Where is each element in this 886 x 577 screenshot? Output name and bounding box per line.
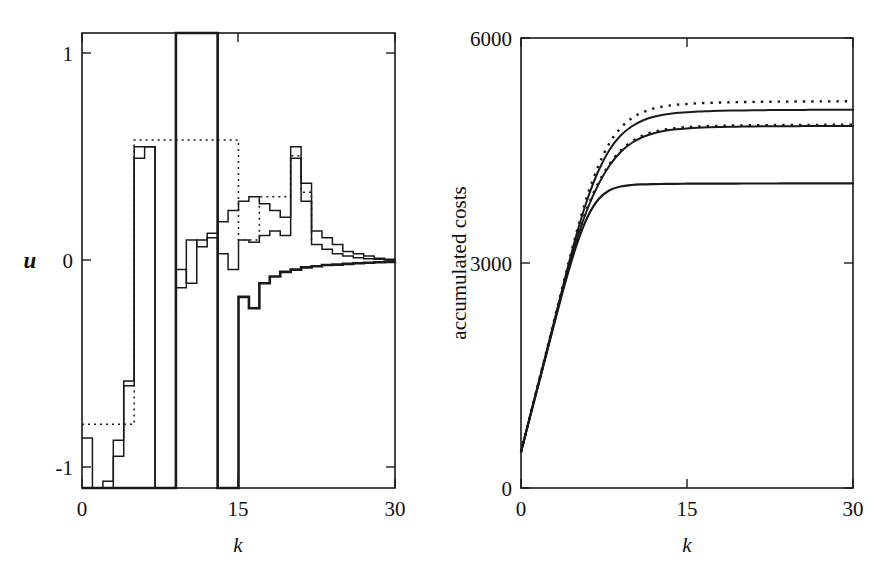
series-path (521, 110, 853, 452)
left-y-ticklabel-1: 1 (63, 42, 74, 66)
left-panel-series (82, 33, 395, 488)
series-path (521, 183, 853, 452)
right-panel: 6000 3000 0 0 15 30 k accumulated costs (447, 27, 864, 557)
left-yaxis-label: u (24, 248, 37, 273)
left-x-ticklabel-15: 15 (228, 497, 249, 521)
right-y-ticklabel-6000: 6000 (470, 27, 512, 51)
left-x-ticklabel-30: 30 (385, 497, 406, 521)
figure-svg: 1 0 -1 0 15 30 k u (0, 0, 886, 577)
right-yaxis-label: accumulated costs (447, 186, 471, 339)
right-x-ticklabel-15: 15 (677, 497, 698, 521)
right-panel-series (521, 101, 853, 452)
left-x-ticklabel-0: 0 (77, 497, 88, 521)
left-y-ticklabel-0: 0 (63, 249, 74, 273)
left-y-ticklabel-neg1: -1 (56, 456, 74, 480)
right-y-ticklabel-0: 0 (502, 477, 513, 501)
series-path (521, 125, 853, 452)
right-y-ticklabel-3000: 3000 (470, 252, 512, 276)
series-path (521, 126, 853, 452)
series-path (521, 101, 853, 452)
figure-container: 1 0 -1 0 15 30 k u (0, 0, 886, 577)
right-x-ticklabel-0: 0 (516, 497, 527, 521)
right-xaxis-label: k (682, 533, 692, 557)
right-x-ticklabel-30: 30 (843, 497, 864, 521)
left-xaxis-label: k (233, 533, 243, 557)
left-panel: 1 0 -1 0 15 30 k u (24, 33, 406, 557)
